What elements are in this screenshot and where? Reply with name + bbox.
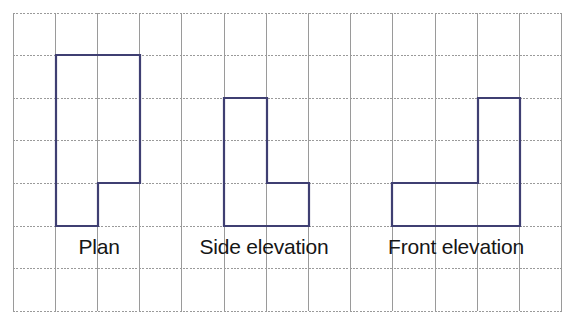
- figure-background: [0, 0, 576, 324]
- worksheet-canvas: PlanSide elevationFront elevation: [0, 0, 576, 324]
- front-elevation-label: Front elevation: [388, 235, 524, 258]
- isometric-views-figure: PlanSide elevationFront elevation: [0, 0, 576, 324]
- plan-label: Plan: [78, 235, 119, 258]
- side-elevation-label: Side elevation: [199, 235, 328, 258]
